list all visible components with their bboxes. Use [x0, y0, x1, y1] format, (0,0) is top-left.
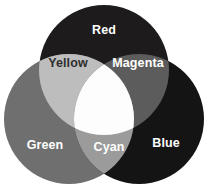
- venn-svg-canvas: [0, 0, 208, 193]
- venn-diagram: Red Green Blue Yellow Magenta Cyan: [0, 0, 208, 193]
